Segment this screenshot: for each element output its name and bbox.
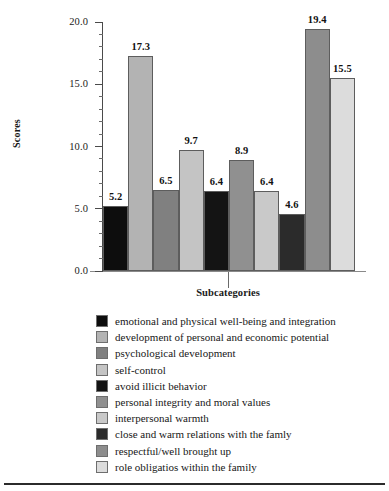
bar-value-label: 8.9 bbox=[221, 145, 262, 156]
legend-item: personal integrity and moral values bbox=[96, 394, 386, 410]
x-axis-center-tick bbox=[228, 272, 229, 288]
y-axis-minor-tick bbox=[99, 121, 103, 122]
y-axis-major-tick bbox=[95, 22, 103, 23]
y-axis-minor-tick bbox=[99, 109, 103, 110]
y-axis-minor-tick bbox=[99, 158, 103, 159]
y-axis-major-tick bbox=[95, 208, 103, 209]
legend-item: avoid illicit behavior bbox=[96, 378, 386, 394]
bar-chart-figure: 0.05.010.015.020.0 Scores Subcategories … bbox=[0, 0, 389, 491]
legend-swatch-icon bbox=[96, 380, 108, 392]
bar-value-label: 6.5 bbox=[145, 175, 186, 186]
legend-item-label: development of personal and economic pot… bbox=[115, 331, 329, 343]
legend-swatch-icon bbox=[96, 331, 108, 343]
bar bbox=[153, 190, 178, 271]
legend-item-label: interpersonal warmth bbox=[115, 412, 209, 424]
legend-swatch-icon bbox=[96, 428, 108, 440]
bar bbox=[103, 206, 128, 271]
bar bbox=[279, 214, 304, 271]
y-axis-minor-tick bbox=[99, 59, 103, 60]
legend-item-label: emotional and physical well-being and in… bbox=[115, 315, 336, 327]
legend-item: psychological development bbox=[96, 345, 386, 361]
y-axis-tick-label: 5.0 bbox=[52, 204, 88, 214]
bar bbox=[204, 191, 229, 271]
legend-item: emotional and physical well-being and in… bbox=[96, 313, 386, 329]
bar-value-label: 15.5 bbox=[322, 63, 363, 74]
bar-value-label: 4.6 bbox=[271, 199, 312, 210]
y-axis-minor-tick bbox=[99, 46, 103, 47]
legend-swatch-icon bbox=[96, 315, 108, 327]
y-axis-title: Scores bbox=[11, 104, 22, 164]
y-axis-major-tick bbox=[95, 271, 103, 272]
legend-item: close and warm relations with the famly bbox=[96, 426, 386, 442]
legend-swatch-icon bbox=[96, 412, 108, 424]
legend-item-label: close and warm relations with the famly bbox=[115, 428, 292, 440]
y-axis-tick-label: 10.0 bbox=[52, 142, 88, 152]
bar-value-label: 6.4 bbox=[196, 176, 237, 187]
legend-item: role obligatios within the family bbox=[96, 459, 386, 475]
bar-value-label: 19.4 bbox=[297, 14, 338, 25]
y-axis-minor-tick bbox=[99, 96, 103, 97]
legend-item-label: personal integrity and moral values bbox=[115, 396, 270, 408]
y-axis-minor-tick bbox=[99, 71, 103, 72]
y-axis-minor-tick bbox=[99, 134, 103, 135]
legend-item-label: psychological development bbox=[115, 347, 236, 359]
legend-item-label: avoid illicit behavior bbox=[115, 380, 207, 392]
y-axis-minor-tick bbox=[99, 171, 103, 172]
legend-swatch-icon bbox=[96, 461, 108, 473]
y-axis-minor-tick bbox=[99, 34, 103, 35]
legend-item: self-control bbox=[96, 362, 386, 378]
bar-value-label: 5.2 bbox=[95, 191, 136, 202]
chart-legend: emotional and physical well-being and in… bbox=[96, 313, 386, 475]
x-axis-title: Subcategories bbox=[148, 287, 308, 298]
legend-item-label: role obligatios within the family bbox=[115, 461, 257, 473]
bottom-divider bbox=[4, 483, 385, 485]
bar-value-label: 17.3 bbox=[120, 41, 161, 52]
legend-swatch-icon bbox=[96, 364, 108, 376]
bar bbox=[330, 78, 355, 271]
legend-swatch-icon bbox=[96, 396, 108, 408]
legend-item: development of personal and economic pot… bbox=[96, 329, 386, 345]
bar-value-label: 6.4 bbox=[246, 176, 287, 187]
legend-item-label: self-control bbox=[115, 364, 166, 376]
legend-swatch-icon bbox=[96, 445, 108, 457]
bar bbox=[179, 150, 204, 271]
legend-item: respectful/well brought up bbox=[96, 443, 386, 459]
y-axis-minor-tick bbox=[99, 183, 103, 184]
legend-swatch-icon bbox=[96, 347, 108, 359]
y-axis-tick-label: 0.0 bbox=[52, 266, 88, 276]
bar-value-label: 9.7 bbox=[171, 135, 212, 146]
legend-item-label: respectful/well brought up bbox=[115, 445, 231, 457]
y-axis-major-tick bbox=[95, 146, 103, 147]
y-axis-major-tick bbox=[95, 84, 103, 85]
y-axis-tick-label: 15.0 bbox=[52, 79, 88, 89]
bar bbox=[128, 56, 153, 271]
legend-item: interpersonal warmth bbox=[96, 410, 386, 426]
y-axis-tick-label: 20.0 bbox=[52, 17, 88, 27]
